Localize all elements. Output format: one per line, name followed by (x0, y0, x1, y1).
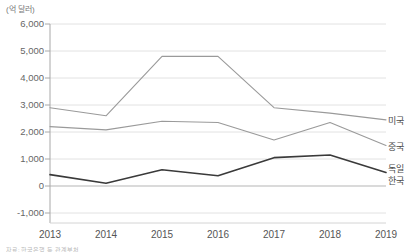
y-axis-tick: 5,000 (0, 45, 44, 56)
x-axis-tick: 2019 (363, 229, 409, 240)
chart-footnote: 자료: 한국은행 등 관계부처 (6, 245, 79, 252)
axis-lines (50, 24, 386, 223)
y-axis-tick: 1,000 (0, 153, 44, 164)
gridlines (45, 24, 386, 213)
x-axis-tick: 2015 (139, 229, 185, 240)
x-axis-tick: 2014 (83, 229, 129, 240)
y-axis-tick: 4,000 (0, 72, 44, 83)
x-axis-tick: 2016 (195, 229, 241, 240)
series-label-usa: 미국 (388, 114, 404, 127)
y-axis-tick: 6,000 (0, 18, 44, 29)
x-axis-tick: 2017 (251, 229, 297, 240)
series-label-korea: 한국 (388, 174, 404, 187)
y-axis-tick: 3,000 (0, 99, 44, 110)
x-axis-tick: 2013 (27, 229, 73, 240)
y-axis-tick: 2,000 (0, 126, 44, 137)
series-label-china: 중국 (388, 140, 404, 153)
y-axis-tick: 0 (0, 180, 44, 191)
series-lines (50, 56, 386, 183)
y-axis-tick: -1,000 (0, 207, 44, 218)
x-axis-tick: 2018 (307, 229, 353, 240)
